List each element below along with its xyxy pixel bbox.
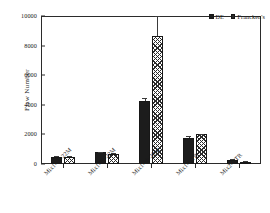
y-tick-label: 10000 bbox=[21, 13, 41, 19]
error-bar-cap bbox=[243, 161, 248, 162]
y-tick-label: 0 bbox=[34, 161, 41, 167]
y-tick-label: 2000 bbox=[24, 131, 41, 137]
plot-area: 0200040006000800010000 bbox=[41, 16, 261, 164]
legend-item-franckens: Francken's bbox=[231, 13, 265, 20]
error-bar-cap bbox=[199, 134, 204, 135]
bar-franckens bbox=[196, 134, 207, 164]
x-axis-tick-labels: Mix1-7b-22MMix1-7b-22MMix1-8b-22MMix1-GT… bbox=[41, 166, 261, 213]
y-tick-label: 4000 bbox=[24, 102, 41, 108]
chart-legend: DE Francken's bbox=[207, 12, 267, 21]
error-bar-cap bbox=[186, 136, 191, 137]
y-tick-label: 8000 bbox=[24, 42, 41, 48]
error-bar-cap bbox=[98, 152, 103, 153]
bar-franckens bbox=[152, 36, 163, 164]
legend-swatch-franckens-icon bbox=[231, 14, 236, 19]
y-axis-label-container: Flaw Number bbox=[8, 16, 20, 164]
error-bar-cap bbox=[67, 156, 72, 157]
error-bar-cap bbox=[142, 98, 147, 99]
y-tick-label: 6000 bbox=[24, 72, 41, 78]
bar-chart-figure: Flaw Number 0200040006000800010000 Mix1-… bbox=[0, 0, 270, 213]
bars-layer bbox=[41, 16, 261, 164]
legend-item-de: DE bbox=[209, 13, 224, 20]
error-bar bbox=[157, 16, 158, 36]
legend-label-de: DE bbox=[216, 13, 224, 20]
error-bar-cap bbox=[155, 16, 160, 17]
legend-swatch-de-icon bbox=[209, 14, 214, 19]
legend-label-franckens: Francken's bbox=[237, 13, 265, 20]
